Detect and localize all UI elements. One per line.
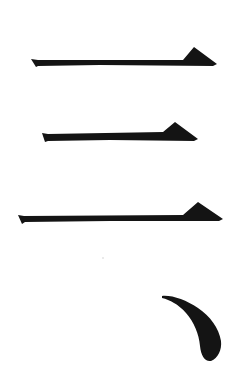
ink-speck	[102, 257, 104, 259]
brush-strokes-canvas	[0, 0, 234, 368]
